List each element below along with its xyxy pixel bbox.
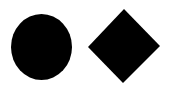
- circle-shape: [11, 14, 72, 80]
- shapes-canvas: [0, 0, 171, 94]
